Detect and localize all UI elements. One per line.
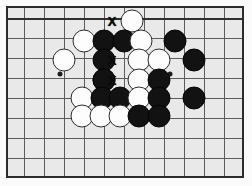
star-point [58, 72, 63, 77]
screenshot-root: XXX [0, 0, 252, 186]
grid-line-horizontal [8, 138, 242, 139]
black-stone[interactable] [183, 87, 206, 110]
mark-x-lower: X [108, 74, 117, 87]
go-board-frame: XXX [6, 6, 244, 178]
grid-line-vertical [64, 8, 65, 176]
go-board-surface[interactable]: XXX [8, 8, 242, 176]
grid-line-horizontal [8, 58, 242, 59]
white-stone[interactable] [53, 49, 76, 72]
black-stone[interactable] [164, 30, 187, 53]
mark-x-top: X [108, 15, 117, 28]
mark-x-middle: X [108, 54, 117, 67]
grid-line-horizontal [8, 158, 242, 159]
black-stone[interactable] [148, 105, 171, 128]
grid-line-vertical [44, 8, 45, 176]
grid-line-horizontal [8, 78, 242, 79]
black-stone[interactable] [183, 49, 206, 72]
grid-line-vertical [224, 8, 225, 176]
grid-line-vertical [24, 8, 25, 176]
